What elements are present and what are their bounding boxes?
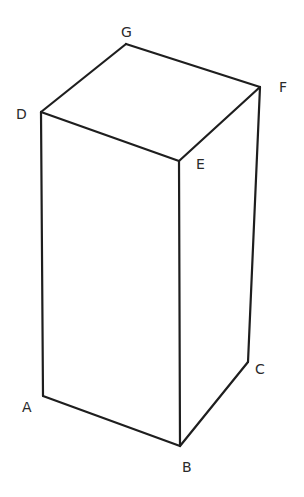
vertex-label-a: A bbox=[22, 399, 32, 415]
vertex-label-g: G bbox=[121, 24, 132, 40]
vertex-label-c: C bbox=[255, 361, 265, 377]
vertex-label-b: B bbox=[182, 459, 192, 475]
paper-background bbox=[0, 0, 304, 497]
vertex-label-e: E bbox=[196, 156, 205, 172]
cuboid-diagram: G F D E C A B bbox=[0, 0, 304, 497]
edge-eb bbox=[179, 161, 180, 446]
vertex-label-d: D bbox=[16, 106, 27, 122]
vertex-label-f: F bbox=[279, 79, 287, 95]
